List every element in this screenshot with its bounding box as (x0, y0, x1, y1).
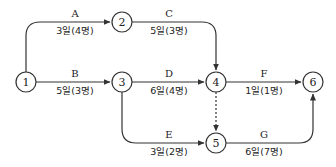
activity-name: B (71, 68, 78, 79)
edge-g (226, 94, 313, 143)
activity-name: E (165, 129, 172, 140)
activity-info: 6일(4명) (150, 85, 188, 96)
activity-info: 3일(4명) (56, 25, 94, 36)
node-label: 1 (23, 76, 30, 89)
node-label: 5 (213, 137, 220, 150)
activity-name: A (70, 8, 79, 19)
edge-e (122, 92, 204, 143)
node-6: 6 (303, 72, 323, 92)
activity-info: 5일(3명) (56, 85, 94, 96)
activity-name: F (261, 68, 268, 79)
activity-info: 6일(7명) (245, 146, 283, 157)
activity-info: 1일(1명) (245, 85, 283, 96)
activity-name: D (165, 68, 173, 79)
node-label: 4 (213, 76, 220, 89)
node-3: 3 (112, 72, 132, 92)
activity-name: C (165, 8, 173, 19)
activity-name: G (260, 129, 268, 140)
node-5: 5 (206, 133, 226, 153)
node-4: 4 (206, 72, 226, 92)
activity-info: 5일(3명) (150, 25, 188, 36)
node-2: 2 (112, 12, 132, 32)
network-diagram: A 3일(4명) B 5일(3명) C 5일(3명) D 6일(4명) E 3일… (0, 0, 336, 167)
node-label: 6 (310, 76, 317, 89)
node-label: 3 (119, 76, 126, 89)
node-1: 1 (16, 72, 36, 92)
activity-info: 3일(2명) (150, 146, 188, 157)
node-label: 2 (119, 16, 126, 29)
